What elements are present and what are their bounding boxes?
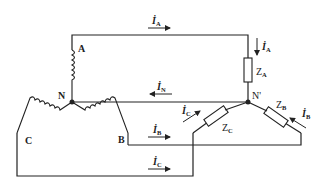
source-coil-c [17, 97, 72, 133]
label-c: C [25, 135, 32, 146]
zc-lead-lower [193, 122, 208, 133]
arrow-ib-load [290, 118, 306, 128]
node-n-prime-dot [246, 100, 251, 105]
label-ic-load: İC [181, 105, 191, 117]
label-ib-load: İB [301, 108, 311, 120]
impedance-za [244, 58, 252, 82]
circuit-diagram: A N N' C B ZA ZC ZB İA İA İN İB İC İC İB [0, 0, 321, 190]
label-ia-line: İA [151, 15, 161, 27]
zb-lead-lower [285, 123, 301, 133]
label-n-prime: N' [252, 90, 261, 101]
label-a: A [78, 43, 86, 54]
label-ib-line: İB [152, 124, 162, 136]
zc-lead-upper [225, 102, 248, 110]
source-coil-a [72, 50, 75, 102]
label-b: B [118, 134, 125, 145]
label-n: N [58, 90, 66, 101]
line-a-wire [72, 35, 248, 58]
label-zb: ZB [276, 99, 287, 111]
label-ic-line: İC [152, 156, 162, 168]
label-zc: ZC [222, 122, 233, 134]
label-za: ZA [256, 66, 267, 78]
label-ia-load: İA [261, 41, 271, 53]
line-c-wire [17, 133, 193, 176]
zb-lead-upper [248, 102, 267, 111]
label-in: İN [156, 81, 166, 93]
node-n-dot [70, 100, 75, 105]
